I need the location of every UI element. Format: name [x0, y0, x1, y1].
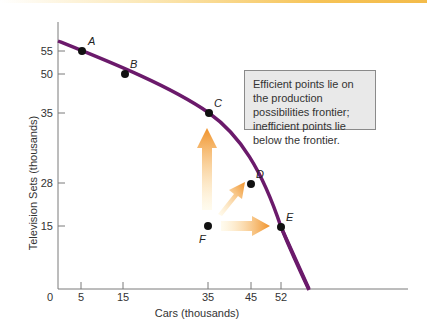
arrow-up-icon — [197, 128, 217, 210]
ppf-curve-tail — [281, 227, 309, 290]
y-tick-label: 28 — [41, 177, 53, 189]
point-b — [121, 70, 129, 78]
point-label-e: E — [286, 211, 294, 223]
ppf-chart: 55 50 35 28 15 0 5 15 35 45 52 Cars (tho… — [0, 0, 427, 333]
point-d — [247, 180, 255, 188]
annotation-text: Efficient points lie on the production p… — [253, 78, 354, 146]
y-tick-label: 50 — [41, 68, 53, 80]
point-label-c: C — [214, 97, 222, 109]
point-label-f: F — [199, 233, 207, 245]
point-label-b: B — [130, 58, 137, 70]
arrow-diagonal-icon — [218, 182, 245, 216]
point-c — [205, 109, 213, 117]
x-tick-label: 0 — [47, 291, 53, 303]
x-tick-label: 45 — [245, 291, 257, 303]
y-axis-title: Television Sets (thousands) — [27, 116, 39, 251]
x-tick-label: 35 — [202, 291, 214, 303]
point-a — [78, 47, 86, 55]
point-f — [204, 222, 212, 230]
y-tick-label: 35 — [41, 107, 53, 119]
x-axis-title: Cars (thousands) — [155, 307, 239, 319]
y-tick-label: 15 — [41, 220, 53, 232]
arrow-right-icon — [221, 216, 270, 236]
x-tick-label: 52 — [275, 291, 287, 303]
point-e — [277, 223, 285, 231]
x-tick-label: 5 — [78, 291, 84, 303]
point-label-a: A — [87, 35, 95, 47]
y-tick-label: 55 — [41, 45, 53, 57]
annotation-box: Efficient points lie on the production p… — [244, 70, 376, 130]
x-tick-label: 15 — [117, 291, 129, 303]
point-label-d: D — [256, 168, 264, 180]
axes: 55 50 35 28 15 0 5 15 35 45 52 Cars (tho… — [27, 22, 408, 319]
